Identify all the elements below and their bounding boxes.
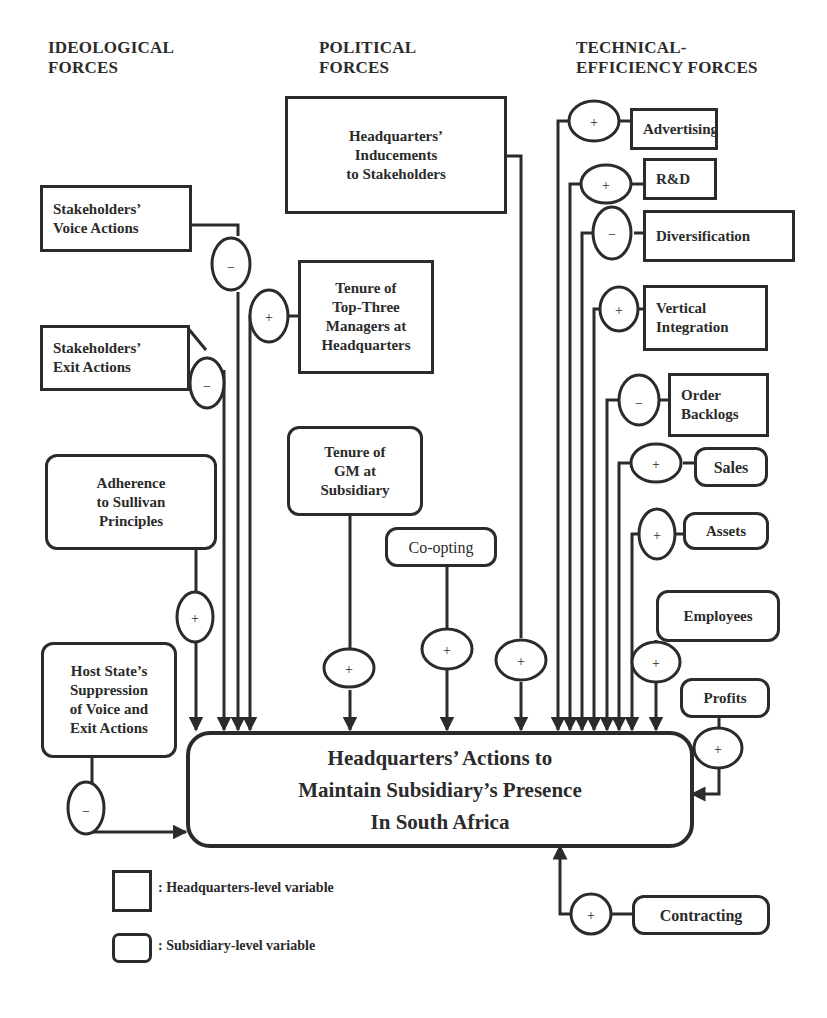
node-diversification: Diversification: [643, 210, 795, 262]
sign-text: +: [652, 656, 660, 671]
sign-text: +: [443, 643, 451, 658]
node-advertising: Advertising: [630, 108, 718, 150]
arrow-profits: [692, 768, 719, 794]
sign-text: +: [265, 310, 273, 325]
sign-text: +: [652, 457, 660, 472]
sign-text: −: [82, 804, 90, 819]
node-sullivan-principles: Adherence to Sullivan Principles: [45, 454, 217, 550]
sign-text: +: [653, 528, 661, 543]
sign-text: +: [191, 611, 199, 626]
sign-text: −: [635, 396, 643, 411]
node-tenure-gm-subsidiary: Tenure of GM at Subsidiary: [287, 426, 423, 516]
node-co-opting: Co-opting: [385, 527, 497, 567]
arrow-tenure-top-three: [250, 316, 252, 730]
sign-text: +: [590, 115, 598, 130]
node-contracting: Contracting: [632, 895, 770, 935]
sign-text: −: [203, 379, 211, 394]
sign-text: +: [517, 654, 525, 669]
node-vertical-integration: Vertical Integration: [643, 285, 768, 351]
node-hq-inducements: Headquarters’ Inducements to Stakeholder…: [285, 96, 507, 214]
node-host-state-suppression: Host State’s Suppression of Voice and Ex…: [41, 642, 177, 758]
sign-text: +: [587, 908, 595, 923]
sign-text: −: [227, 260, 235, 275]
sign-text: +: [615, 303, 623, 318]
node-assets: Assets: [683, 512, 769, 550]
node-profits: Profits: [680, 678, 770, 718]
node-stakeholders-voice-actions: Stakeholders’ Voice Actions: [40, 185, 192, 252]
sign-text: +: [714, 742, 722, 757]
legend-rounded-swatch: [112, 933, 152, 963]
legend-sub-level-label: : Subsidiary-level variable: [158, 938, 315, 954]
node-stakeholders-exit-actions: Stakeholders’ Exit Actions: [40, 325, 190, 391]
arrow-contracting: [560, 846, 571, 914]
sign-text: −: [608, 227, 616, 242]
node-central-outcome: Headquarters’ Actions to Maintain Subsid…: [186, 731, 694, 848]
legend-square-swatch: [112, 870, 152, 912]
sign-text: +: [602, 178, 610, 193]
node-rd: R&D: [643, 158, 717, 200]
sign-text: +: [345, 662, 353, 677]
node-sales: Sales: [694, 447, 768, 487]
node-order-backlogs: Order Backlogs: [668, 373, 769, 437]
node-tenure-top-three: Tenure of Top-Three Managers at Headquar…: [298, 260, 434, 374]
node-employees: Employees: [656, 590, 780, 642]
legend-hq-level-label: : Headquarters-level variable: [158, 880, 334, 896]
